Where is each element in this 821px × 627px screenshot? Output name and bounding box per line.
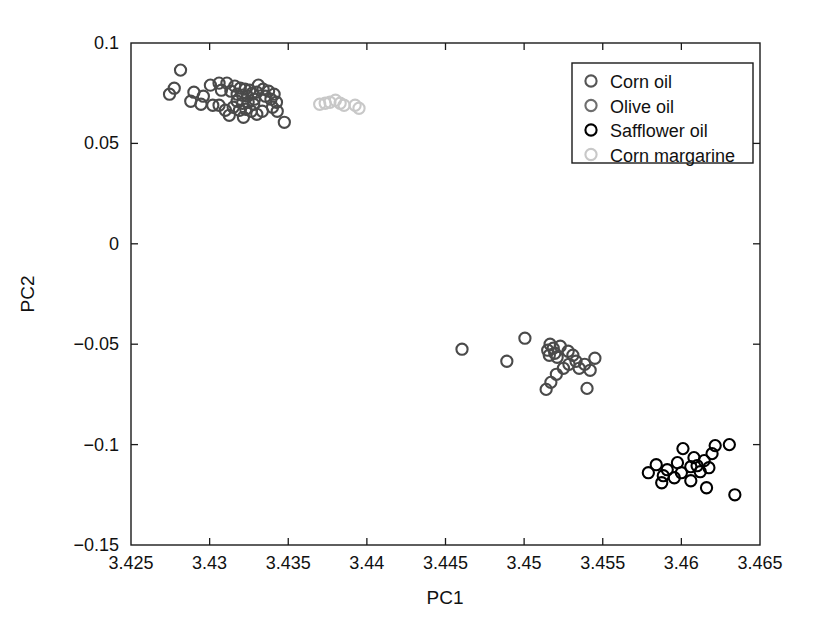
x-tick-label: 3.43 — [192, 553, 227, 573]
x-tick-label: 3.46 — [664, 553, 699, 573]
y-tick-label: −0.1 — [83, 435, 119, 455]
x-tick-label: 3.425 — [108, 553, 153, 573]
x-tick-label: 3.435 — [266, 553, 311, 573]
legend-label-corn-oil: Corn oil — [610, 72, 672, 92]
pca-scatter-chart: 3.4253.433.4353.443.4453.453.4553.463.46… — [0, 0, 821, 627]
x-axis-label: PC1 — [427, 587, 464, 608]
y-tick-label: −0.15 — [73, 535, 119, 555]
scatter-plot-figure: 3.4253.433.4353.443.4453.453.4553.463.46… — [0, 0, 821, 627]
chart-legend: Corn oilOlive oilSafflower oilCorn marga… — [572, 63, 753, 166]
y-tick-label: −0.05 — [73, 334, 119, 354]
y-tick-label: 0.1 — [94, 33, 119, 53]
y-tick-label: 0 — [109, 234, 119, 254]
y-tick-label: 0.05 — [84, 133, 119, 153]
x-tick-label: 3.465 — [737, 553, 782, 573]
x-axis-tick-labels: 3.4253.433.4353.443.4453.453.4553.463.46… — [108, 553, 782, 573]
x-tick-label: 3.45 — [507, 553, 542, 573]
x-tick-label: 3.44 — [349, 553, 384, 573]
legend-label-olive-oil: Olive oil — [610, 97, 674, 117]
x-tick-label: 3.445 — [423, 553, 468, 573]
legend-label-safflower-oil: Safflower oil — [610, 121, 708, 141]
y-axis-label: PC2 — [17, 276, 38, 313]
legend-label-corn-margarine: Corn margarine — [610, 146, 735, 166]
x-tick-label: 3.455 — [580, 553, 625, 573]
